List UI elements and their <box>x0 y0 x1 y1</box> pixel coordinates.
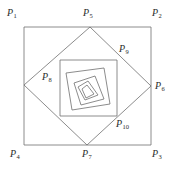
vertex-label-p9: P9 <box>119 44 128 54</box>
geometry-figure: P1P5P2P9P8P6P10P4P7P3 <box>0 0 176 177</box>
vertex-label-p8: P8 <box>42 72 51 82</box>
vertex-label-p10: P10 <box>116 119 129 129</box>
vertex-label-subscript: 2 <box>158 12 161 19</box>
vertex-label-p7: P7 <box>82 149 91 159</box>
polygon-layer <box>24 27 151 145</box>
square-5 <box>74 76 104 105</box>
vertex-label-p1: P1 <box>7 8 16 18</box>
vertex-label-subscript: 1 <box>13 12 16 19</box>
vertex-label-p3: P3 <box>152 149 161 159</box>
vertex-label-subscript: 8 <box>48 76 51 83</box>
vertex-label-subscript: 4 <box>16 153 19 160</box>
vertex-label-p6: P6 <box>155 81 164 91</box>
vertex-label-p5: P5 <box>83 8 92 18</box>
vertex-label-subscript: 6 <box>161 85 164 92</box>
vertex-label-subscript: 10 <box>122 123 129 130</box>
square-4 <box>66 68 110 110</box>
vertex-label-subscript: 5 <box>89 12 92 19</box>
vertex-label-subscript: 7 <box>88 153 91 160</box>
vertex-label-subscript: 9 <box>125 48 128 55</box>
vertex-label-subscript: 3 <box>158 153 161 160</box>
vertex-label-p4: P4 <box>10 149 19 159</box>
vertex-label-p2: P2 <box>152 8 161 18</box>
